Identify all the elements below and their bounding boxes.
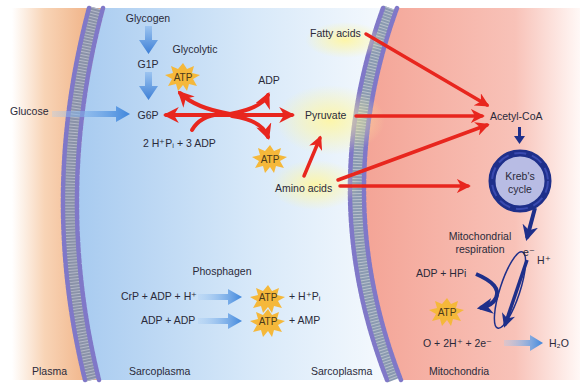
glycogen-label: Glycogen [126,12,171,24]
phosphagen-row2-products: + AMP [289,314,320,326]
oxygen-reaction-label: O + 2H⁺ + 2e⁻ [423,337,492,349]
plasma-label: Plasma [32,365,67,377]
krebs-label-line1: Kreb's [505,170,534,182]
proton-label: H⁺ [537,254,551,266]
respiration-label-line1: Mitochondrial [449,230,511,242]
g6p-label: G6P [137,109,158,121]
phosphagen-row1-reactants: CrP + ADP + H⁺ [121,290,197,302]
respiration-label-line2: respiration [455,243,504,255]
glycolytic-title: Glycolytic [173,43,218,55]
atp-glycolytic-bottom-label: ATP [261,154,280,165]
phosphagen-title: Phosphagen [193,265,252,277]
water-label: H₂O [549,337,569,349]
phosphagen-row2-reactants: ADP + ADP [141,314,195,326]
energy-systems-diagram: Glycogen Glycolytic G1P G6P Glucose ATP … [0,0,580,387]
glucose-label: Glucose [10,105,49,117]
sarcoplasma-right-label: Sarcoplasma [311,365,372,377]
krebs-label-line2: cycle [508,183,532,195]
phosphagen-row2-atp: ATP [259,316,278,327]
acetyl-coa-label: Acetyl-CoA [490,110,543,122]
phosphagen-row1-products: + H⁺Pᵢ [289,290,321,302]
pyruvate-label: Pyruvate [305,109,347,121]
atp-mitochondrial-label: ATP [438,307,457,318]
adp-hpi-label: ADP + HPi [416,267,466,279]
glycolytic-input-label: 2 H⁺Pᵢ + 3 ADP [143,137,216,149]
sarcoplasma-left-label: Sarcoplasma [129,365,190,377]
amino-acids-label: Amino acids [275,182,332,194]
g1p-label: G1P [137,58,158,70]
mitochondria-label: Mitochondria [429,365,489,377]
adp-label: ADP [258,74,280,86]
electron-label: e⁻ [523,246,535,258]
phosphagen-row1-atp: ATP [259,292,278,303]
fatty-acids-label: Fatty acids [310,27,361,39]
atp-glycolytic-top-label: ATP [174,72,193,83]
